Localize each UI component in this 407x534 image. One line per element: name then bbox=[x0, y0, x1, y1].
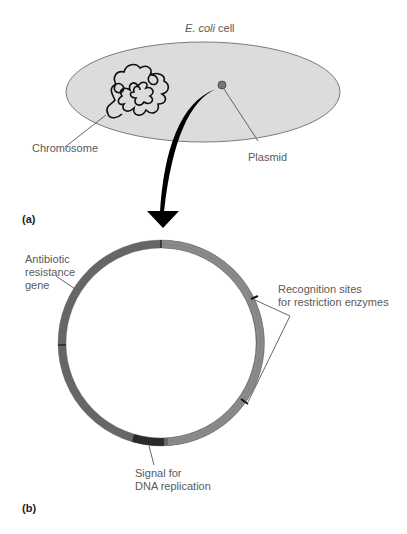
panel-a-label: (a) bbox=[22, 213, 35, 225]
antibiotic-line-1: Antibiotic bbox=[25, 253, 75, 266]
plasmid-label: Plasmid bbox=[248, 151, 287, 164]
recognition-line-1: Recognition sites bbox=[278, 283, 389, 296]
ecoli-cell bbox=[66, 42, 340, 142]
antibiotic-line-2: resistance bbox=[25, 266, 75, 279]
signal-replication-label: Signal for DNA replication bbox=[135, 467, 211, 493]
plasmid-dot bbox=[218, 81, 226, 89]
panel-b-label: (b) bbox=[22, 502, 36, 514]
cell-title: E. coli cell bbox=[185, 22, 235, 35]
signal-leader bbox=[149, 446, 154, 465]
chromosome-label: Chromosome bbox=[32, 142, 98, 155]
recognition-sites-label: Recognition sites for restriction enzyme… bbox=[278, 283, 389, 309]
antibiotic-line-3: gene bbox=[25, 279, 75, 292]
antibiotic-resistance-label: Antibiotic resistance gene bbox=[25, 253, 75, 292]
origin-segment bbox=[133, 438, 164, 442]
signal-line-1: Signal for bbox=[135, 467, 211, 480]
arrowhead-icon bbox=[147, 211, 179, 228]
cell-title-italic: E. coli bbox=[185, 22, 215, 34]
recognition-line-2: for restriction enzymes bbox=[278, 296, 389, 309]
plasmid-ring bbox=[58, 240, 264, 446]
signal-line-2: DNA replication bbox=[135, 480, 211, 493]
cell-title-rest: cell bbox=[215, 22, 235, 34]
